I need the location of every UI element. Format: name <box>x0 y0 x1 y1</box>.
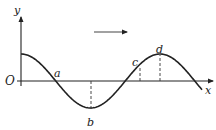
point-label-a: a <box>54 67 61 80</box>
wave-diagram: y x O a b c d <box>0 0 216 130</box>
origin-label: O <box>5 74 15 88</box>
point-label-d: d <box>156 43 163 56</box>
point-label-c: c <box>132 56 138 69</box>
x-axis-label: x <box>205 84 212 97</box>
point-label-b: b <box>87 116 94 129</box>
y-axis-label: y <box>13 4 21 17</box>
